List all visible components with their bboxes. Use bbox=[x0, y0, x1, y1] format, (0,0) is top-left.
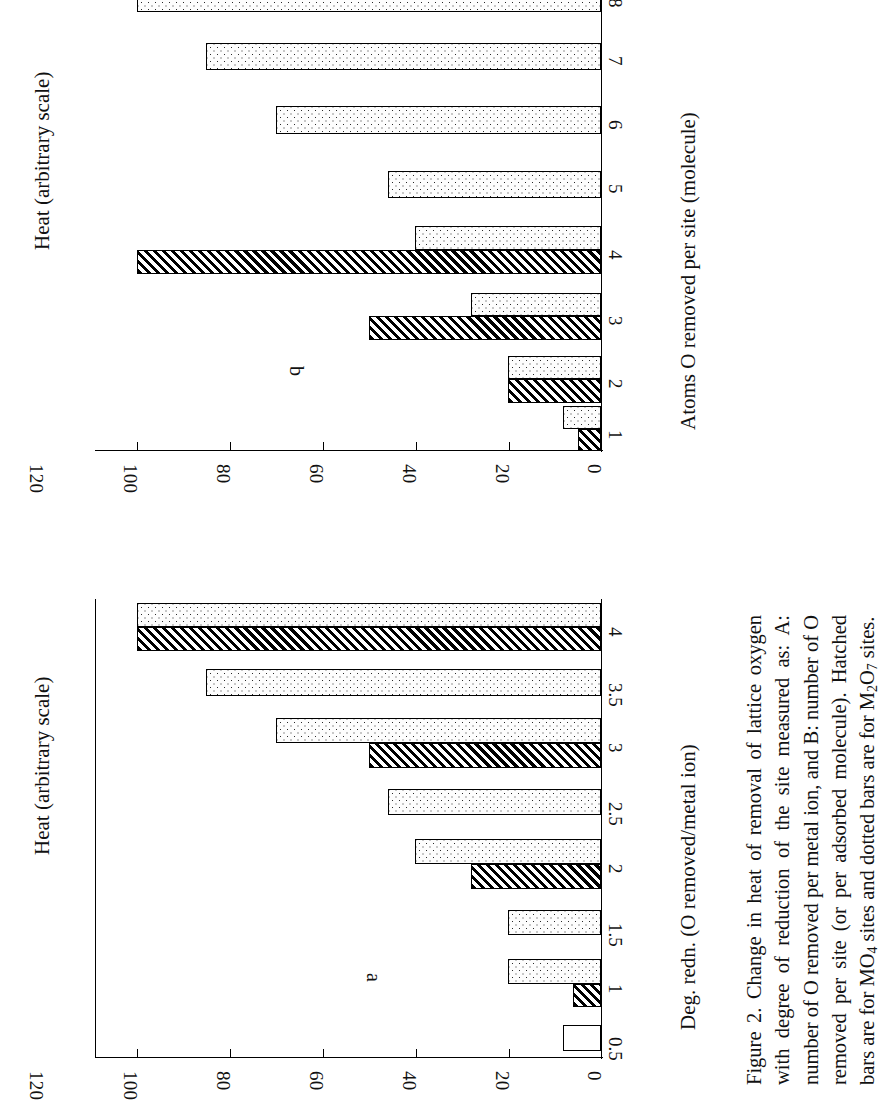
figure-caption-sub-4: 4 bbox=[865, 947, 880, 954]
bar-b-8-dotted bbox=[137, 0, 601, 12]
value-tick-label-a-20: 20 bbox=[491, 1071, 513, 1090]
value-tick-label-a-60: 60 bbox=[305, 1071, 327, 1090]
figure-caption: Figure 2. Change in heat of removal of l… bbox=[740, 615, 882, 1085]
category-axis-title-b: Atoms O removed per site (molecule) bbox=[676, 112, 701, 430]
bar-a-2-dotted bbox=[415, 839, 601, 864]
value-tick-label-b-40: 40 bbox=[398, 464, 420, 483]
value-tick-b-4 bbox=[416, 442, 417, 451]
bar-a-0p5-open bbox=[563, 1025, 601, 1051]
category-axis-line-b bbox=[601, 0, 602, 452]
value-tick-a-4 bbox=[416, 1049, 417, 1058]
category-label-a-2p5: 2.5 bbox=[604, 802, 626, 826]
bar-a-4-dotted bbox=[137, 603, 601, 627]
category-axis-line-a bbox=[601, 599, 602, 1059]
plot-top-line-a bbox=[95, 599, 96, 1058]
figure-caption-label: Figure 2. bbox=[743, 1008, 765, 1085]
value-tick-a-1 bbox=[137, 1049, 138, 1058]
bar-b-4-dotted bbox=[415, 226, 601, 250]
bar-b-3-hatched bbox=[369, 316, 601, 340]
value-tick-label-b-100: 100 bbox=[119, 464, 141, 493]
value-axis-line-b bbox=[95, 450, 603, 451]
value-tick-b-3 bbox=[323, 442, 324, 451]
bar-b-4-hatched bbox=[137, 250, 601, 274]
category-label-b-7: 7 bbox=[604, 56, 626, 66]
value-axis-title-a: Heat (arbitrary scale) bbox=[30, 677, 55, 855]
bar-b-5-dotted bbox=[388, 171, 601, 198]
bar-a-1-dotted bbox=[508, 959, 601, 984]
bar-a-3p5-dotted bbox=[206, 669, 601, 696]
value-tick-b-5 bbox=[509, 442, 510, 451]
chart-panel-a: 120 100 80 60 40 20 0 4 3.5 3 2.5 2 1.5 … bbox=[95, 601, 615, 1067]
category-label-b-1: 1 bbox=[604, 430, 626, 440]
bar-a-1-hatched bbox=[573, 984, 601, 1007]
figure-caption-sub-7: 7 bbox=[865, 663, 880, 670]
value-tick-a-5 bbox=[509, 1049, 510, 1058]
value-tick-b-2 bbox=[230, 442, 231, 451]
value-tick-label-a-40: 40 bbox=[398, 1071, 420, 1090]
panel-letter-b: b bbox=[285, 366, 308, 376]
category-label-a-2: 2 bbox=[604, 864, 626, 874]
value-tick-label-b-120: 120 bbox=[25, 464, 47, 493]
category-label-b-8: 8 bbox=[604, 0, 626, 8]
category-label-b-4: 4 bbox=[604, 250, 626, 260]
bar-a-3-hatched bbox=[369, 743, 601, 768]
bar-a-2p5-dotted bbox=[388, 789, 601, 815]
category-label-b-6: 6 bbox=[604, 120, 626, 130]
bar-b-2-dotted bbox=[508, 356, 601, 379]
bar-a-3-dotted bbox=[276, 718, 601, 743]
bar-b-7-dotted bbox=[206, 43, 601, 70]
bar-b-6-dotted bbox=[276, 106, 601, 134]
bar-b-1-hatched bbox=[578, 429, 601, 451]
value-tick-a-2 bbox=[230, 1049, 231, 1058]
value-tick-label-a-100: 100 bbox=[119, 1071, 141, 1100]
category-label-a-4: 4 bbox=[604, 627, 626, 637]
figure-caption-mid: sites and dotted bars are for M bbox=[856, 692, 878, 946]
category-label-a-3p5: 3.5 bbox=[604, 683, 626, 707]
value-axis-title-b: Heat (arbitrary scale) bbox=[30, 72, 55, 250]
figure-caption-sub-2: 2 bbox=[865, 685, 880, 692]
bar-b-3-dotted bbox=[471, 293, 601, 316]
value-tick-label-a-120: 120 bbox=[25, 1071, 47, 1100]
value-tick-label-a-0: 0 bbox=[583, 1071, 605, 1081]
category-label-a-3: 3 bbox=[604, 743, 626, 753]
figure-caption-mid2: O bbox=[856, 670, 878, 685]
chart-panel-b: 120 100 80 60 40 20 0 8 7 6 5 4 3 2 bbox=[95, 0, 615, 466]
value-tick-a-3 bbox=[323, 1049, 324, 1058]
figure-caption-tail: sites. bbox=[856, 617, 878, 664]
panel-letter-a: a bbox=[362, 973, 385, 982]
category-label-b-5: 5 bbox=[604, 184, 626, 194]
category-label-a-1: 1 bbox=[604, 984, 626, 994]
bar-b-1-dotted bbox=[563, 406, 601, 429]
value-axis-line-a bbox=[95, 1057, 603, 1058]
category-label-b-2: 2 bbox=[604, 379, 626, 389]
value-tick-label-a-80: 80 bbox=[212, 1071, 234, 1090]
bar-a-4-hatched bbox=[137, 627, 601, 651]
bar-a-2-hatched bbox=[471, 864, 601, 889]
value-tick-label-b-20: 20 bbox=[491, 464, 513, 483]
category-label-b-3: 3 bbox=[604, 316, 626, 326]
value-tick-b-1 bbox=[137, 442, 138, 451]
category-label-a-0p5: 0.5 bbox=[604, 1037, 626, 1061]
value-tick-label-b-80: 80 bbox=[212, 464, 234, 483]
bar-b-2-hatched bbox=[508, 379, 601, 403]
value-tick-label-b-60: 60 bbox=[305, 464, 327, 483]
bar-a-1p5-dotted bbox=[508, 910, 601, 935]
category-axis-title-a: Deg. redn. (O removed/metal ion) bbox=[676, 744, 701, 1030]
value-tick-label-b-0: 0 bbox=[583, 464, 605, 474]
category-label-a-1p5: 1.5 bbox=[604, 923, 626, 947]
